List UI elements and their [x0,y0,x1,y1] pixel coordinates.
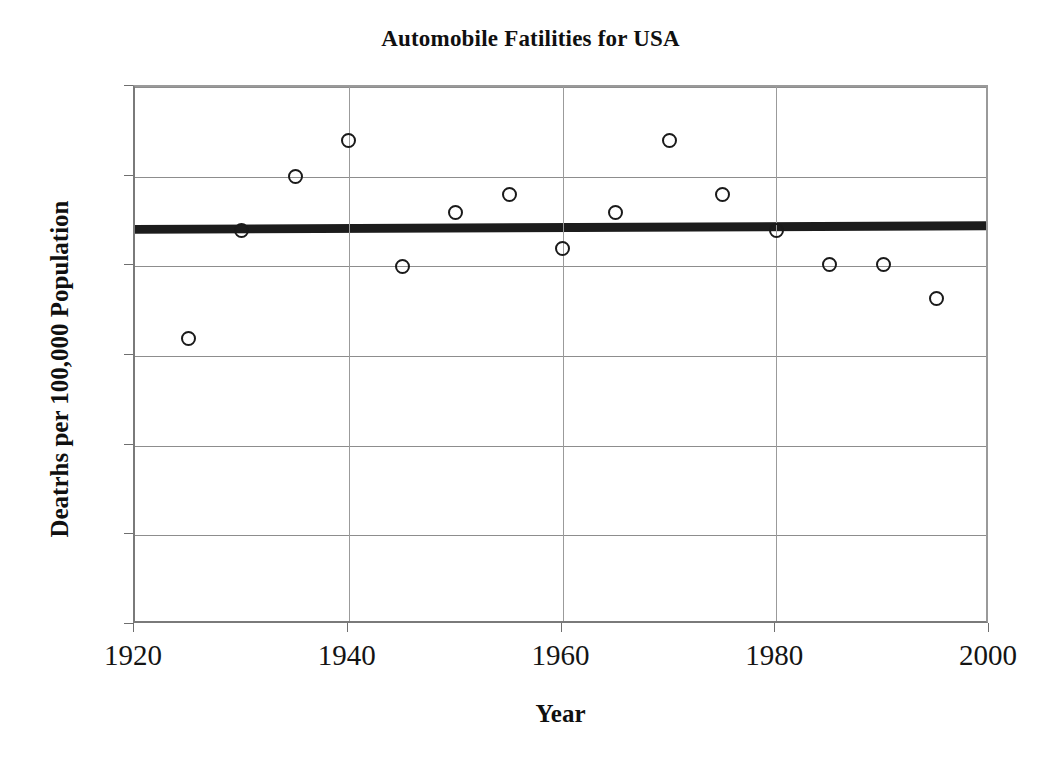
data-point-marker [876,257,891,272]
data-point-marker [288,169,303,184]
x-tick-label-2000: 2000 [918,639,1058,672]
y-tick-mark-10 [124,444,133,445]
x-axis-title: Year [133,700,988,728]
trend-line-segment [135,226,986,230]
x-tick-label-1920: 1920 [63,639,203,672]
chart-page: Automobile Fatilities for USA Deatrhs pe… [0,0,1061,768]
plot-area [133,85,988,623]
data-point-marker [555,241,570,256]
y-tick-mark-30 [124,85,133,86]
x-tick-mark-1920 [133,623,134,632]
y-tick-mark-0 [124,623,133,624]
x-tick-label-1980: 1980 [704,639,844,672]
x-tick-label-1940: 1940 [277,639,417,672]
y-axis-title: Deatrhs per 100,000 Population [46,139,74,599]
data-point-marker [181,331,196,346]
y-tick-mark-25 [124,175,133,176]
x-tick-label-1960: 1960 [491,639,631,672]
gridline-y-20 [135,266,986,267]
data-point-marker [395,259,410,274]
x-tick-mark-1980 [774,623,775,632]
gridline-y-10 [135,446,986,447]
gridline-y-5 [135,535,986,536]
gridline-x-1980 [776,87,777,621]
trend-line [135,87,986,621]
gridline-y-25 [135,177,986,178]
x-tick-mark-1940 [347,623,348,632]
y-tick-mark-15 [124,354,133,355]
data-point-marker [769,223,784,238]
x-tick-mark-1960 [561,623,562,632]
gridline-y-30 [135,87,986,88]
data-point-marker [502,187,517,202]
y-tick-mark-20 [124,264,133,265]
x-tick-mark-2000 [988,623,989,632]
y-tick-mark-5 [124,533,133,534]
plot-inner [135,87,986,621]
gridline-y-15 [135,356,986,357]
gridline-x-1960 [563,87,564,621]
gridline-x-1940 [349,87,350,621]
chart-title: Automobile Fatilities for USA [0,26,1061,52]
